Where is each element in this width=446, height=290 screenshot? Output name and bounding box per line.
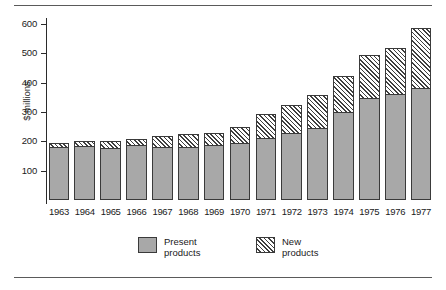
y-axis-tick-label-text: 500 — [7, 48, 37, 58]
bar-segment-present-products — [281, 133, 302, 200]
bar-segment-new-products — [204, 133, 225, 147]
x-axis-label-1968: 1968 — [175, 206, 201, 217]
bar-segment-new-products — [178, 134, 199, 148]
bar-segment-new-products — [307, 95, 328, 129]
x-axis-tick-labels: 1963196419651966196719681969197019711972… — [46, 206, 435, 220]
chart-legend: Present products New products — [138, 236, 388, 270]
x-axis-label-1966: 1966 — [124, 206, 150, 217]
legend-label-line2: products — [282, 247, 318, 258]
y-axis-tick-label: 100 — [4, 166, 37, 176]
bar-segment-new-products — [385, 48, 406, 95]
legend-label-line1: Present — [164, 236, 197, 247]
bar-1968 — [178, 132, 199, 200]
x-axis-label-1972: 1972 — [279, 206, 305, 217]
bar-segment-new-products — [281, 105, 302, 134]
legend-label-line2: products — [164, 247, 200, 258]
bar-segment-present-products — [333, 112, 354, 200]
bar-1976 — [385, 47, 406, 200]
legend-label-present-products: Present products — [164, 236, 200, 258]
bar-segment-present-products — [230, 143, 251, 200]
bar-segment-new-products — [126, 139, 147, 145]
y-axis-tick-label-text: 300 — [7, 107, 37, 117]
bar-segment-new-products — [359, 55, 380, 100]
bar-segment-new-products — [230, 127, 251, 144]
bar-segment-present-products — [307, 128, 328, 200]
x-axis-label-1965: 1965 — [98, 206, 124, 217]
x-axis-label-1976: 1976 — [382, 206, 408, 217]
bar-1964 — [74, 140, 95, 200]
legend-item-new-products: New products — [256, 236, 318, 258]
bar-segment-present-products — [74, 146, 95, 200]
bar-segment-present-products — [152, 147, 173, 200]
bar-1967 — [152, 135, 173, 200]
bar-1974 — [333, 75, 354, 200]
bar-1971 — [256, 113, 277, 200]
bar-segment-present-products — [359, 98, 380, 200]
bar-segment-new-products — [49, 143, 70, 148]
bottom-divider-rule — [14, 277, 432, 278]
bar-1975 — [359, 54, 380, 200]
x-axis-label-1967: 1967 — [149, 206, 175, 217]
x-axis-label-1974: 1974 — [331, 206, 357, 217]
y-axis-tick-label: 600 — [4, 19, 37, 29]
bar-segment-new-products — [100, 141, 121, 148]
bar-1970 — [230, 126, 251, 200]
plot-area — [46, 18, 434, 200]
legend-swatch-grey-square-icon — [138, 237, 157, 253]
y-axis-tick-label: 400 — [4, 78, 37, 88]
x-axis-label-1969: 1969 — [201, 206, 227, 217]
y-axis-tick-label-text: 400 — [7, 78, 37, 88]
x-axis-label-1970: 1970 — [227, 206, 253, 217]
bar-segment-new-products — [333, 76, 354, 113]
bar-segment-present-products — [126, 145, 147, 200]
bar-segment-present-products — [178, 147, 199, 200]
y-axis-tick-label-text: 200 — [7, 136, 37, 146]
bar-segment-new-products — [411, 28, 432, 89]
x-axis-label-1977: 1977 — [408, 206, 434, 217]
legend-label-line1: New — [282, 236, 301, 247]
bar-1966 — [126, 138, 147, 200]
y-axis-tick-label-text: 600 — [7, 19, 37, 29]
bar-segment-present-products — [100, 148, 121, 200]
bar-1963 — [49, 142, 70, 200]
bar-segment-present-products — [204, 145, 225, 200]
bar-segment-new-products — [74, 141, 95, 147]
bar-segment-present-products — [49, 147, 70, 200]
chart-figure: $ millions 100200300400500600 1963196419… — [0, 0, 446, 290]
x-axis-label-1963: 1963 — [46, 206, 72, 217]
y-axis-tick-label: 500 — [4, 48, 37, 58]
legend-label-new-products: New products — [282, 236, 318, 258]
y-axis-tick-label: 300 — [4, 107, 37, 117]
y-axis-tick-label-text: 100 — [7, 166, 37, 176]
x-axis-label-1971: 1971 — [253, 206, 279, 217]
bar-segment-new-products — [152, 136, 173, 148]
top-divider-rule — [14, 5, 432, 6]
legend-swatch-hatched-square-icon — [256, 237, 275, 253]
bar-segment-present-products — [385, 94, 406, 200]
y-axis-tick-label: 200 — [4, 136, 37, 146]
legend-item-present-products: Present products — [138, 236, 200, 258]
bar-segment-present-products — [411, 88, 432, 200]
x-axis-label-1975: 1975 — [356, 206, 382, 217]
bar-1965 — [100, 140, 121, 200]
x-axis-label-1973: 1973 — [305, 206, 331, 217]
x-axis-label-1964: 1964 — [72, 206, 98, 217]
bar-1972 — [281, 104, 302, 200]
bar-1969 — [204, 132, 225, 200]
bar-1977 — [411, 27, 432, 200]
bar-segment-new-products — [256, 114, 277, 140]
bar-segment-present-products — [256, 138, 277, 200]
bar-1973 — [307, 94, 328, 200]
